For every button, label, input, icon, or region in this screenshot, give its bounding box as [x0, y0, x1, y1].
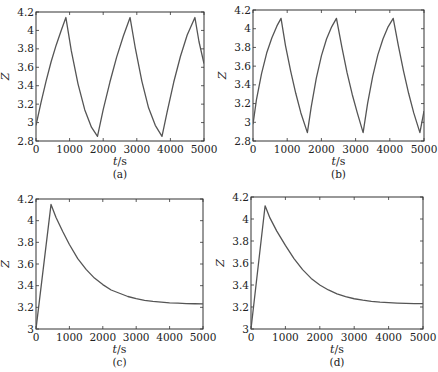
subplot-b: 0100020003000400050002.833.23.43.63.844.…	[216, 4, 437, 181]
y-tick-label: 3.6	[234, 60, 251, 72]
y-tick-label: 4	[27, 214, 34, 226]
series-line-z	[36, 204, 203, 329]
y-tick-label: 3	[244, 116, 251, 128]
y-tick-label: 3.8	[17, 42, 34, 54]
axes-frame	[251, 197, 423, 329]
y-tick-label: 3.8	[232, 235, 249, 247]
y-tick-label: 4	[27, 24, 34, 36]
x-axis-unit: /s	[336, 155, 346, 168]
y-tick-label: 3.2	[234, 97, 251, 109]
x-tick-label: 1000	[56, 331, 83, 343]
y-tick-label: 3.8	[17, 236, 34, 248]
y-tick-label: 4	[242, 213, 249, 225]
y-tick-label: 4.2	[232, 191, 249, 203]
x-tick-label: 5000	[190, 331, 217, 343]
y-tick-label: 3.8	[234, 41, 251, 53]
x-tick-label: 3000	[123, 143, 150, 155]
y-axis-label: Z	[216, 71, 229, 80]
y-tick-label: 3.6	[232, 257, 249, 269]
y-tick-label: 2.8	[234, 135, 251, 147]
y-tick-label: 3.6	[17, 61, 34, 73]
y-tick-label: 3.4	[17, 79, 34, 91]
x-tick-label: 1000	[274, 143, 301, 155]
y-tick-label: 3.4	[234, 78, 251, 90]
y-tick-label: 3	[27, 323, 34, 335]
x-tick-label: 4000	[376, 143, 403, 155]
y-tick-label: 3.2	[17, 98, 34, 110]
subplot-c: 01000200030004000500033.23.43.63.844.2Zt…	[0, 193, 216, 369]
x-tick-label: 4000	[375, 331, 402, 343]
series-line-z	[253, 18, 424, 132]
x-tick-label: 3000	[123, 331, 150, 343]
panel-label: (d)	[330, 356, 345, 368]
x-tick-label: 3000	[341, 331, 368, 343]
x-tick-label: 2000	[90, 143, 117, 155]
y-tick-label: 3	[27, 116, 34, 128]
x-axis-label: t/s	[330, 343, 344, 356]
y-tick-label: 3	[242, 323, 249, 335]
x-axis-unit: /s	[335, 343, 345, 356]
x-axis-unit: /s	[118, 155, 128, 168]
x-axis-label: t/s	[113, 343, 127, 356]
y-tick-label: 2.8	[17, 135, 34, 147]
y-tick-label: 4	[244, 22, 251, 34]
subplot-d: 01000200030004000500033.23.43.63.844.2Zt…	[214, 191, 436, 369]
y-tick-label: 3.4	[17, 279, 34, 291]
panel-label: (a)	[113, 168, 127, 180]
x-tick-label: 1000	[272, 331, 299, 343]
y-tick-label: 3.4	[232, 279, 249, 291]
y-tick-label: 3.2	[17, 301, 34, 313]
x-axis-unit: /s	[117, 343, 127, 356]
figure: 0100020003000400050002.833.23.43.63.844.…	[0, 0, 438, 372]
x-tick-label: 4000	[157, 143, 184, 155]
x-tick-label: 2000	[306, 331, 333, 343]
y-tick-label: 4.2	[234, 4, 251, 16]
series-line-z	[36, 18, 204, 137]
y-axis-label: Z	[0, 72, 12, 81]
y-axis-label: Z	[214, 259, 227, 268]
axes-frame	[36, 199, 203, 329]
x-axis-label: t/s	[332, 155, 346, 168]
x-tick-label: 2000	[89, 331, 116, 343]
panel-label: (b)	[331, 168, 346, 180]
x-tick-label: 5000	[411, 143, 438, 155]
y-tick-label: 4.2	[17, 6, 34, 18]
subplot-a: 0100020003000400050002.833.23.43.63.844.…	[0, 6, 217, 181]
series-line-z	[251, 206, 423, 329]
x-tick-label: 5000	[191, 143, 218, 155]
y-tick-label: 3.6	[17, 258, 34, 270]
x-tick-label: 4000	[156, 331, 183, 343]
y-tick-label: 4.2	[17, 193, 34, 205]
x-tick-label: 5000	[410, 331, 437, 343]
x-tick-label: 2000	[308, 143, 335, 155]
x-tick-label: 3000	[342, 143, 369, 155]
x-axis-label: t/s	[113, 155, 127, 168]
y-axis-label: Z	[0, 260, 12, 269]
panel-label: (c)	[112, 356, 126, 368]
x-tick-label: 1000	[56, 143, 83, 155]
y-tick-label: 3.2	[232, 301, 249, 313]
